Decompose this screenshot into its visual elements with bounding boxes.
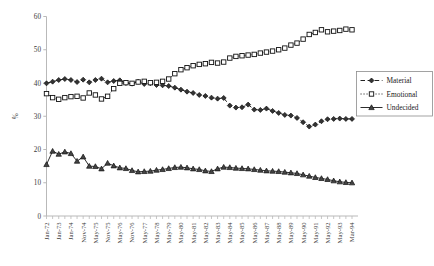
data-point-marker	[325, 30, 329, 34]
x-tick-label: Jan-72	[43, 223, 50, 241]
data-point-marker	[136, 80, 140, 84]
x-tick-label: Mar-94	[348, 222, 355, 242]
x-tick-label: May-75	[92, 222, 99, 244]
data-point-marker	[246, 53, 250, 57]
data-point-marker	[215, 61, 219, 65]
data-point-marker	[112, 86, 116, 90]
legend: MaterialEmotionalUndecided	[357, 72, 433, 117]
data-point-marker	[338, 28, 342, 32]
data-point-marker	[331, 29, 335, 33]
y-tick-label: 30	[34, 113, 42, 121]
x-tick-label: May-87	[263, 222, 270, 244]
data-point-marker	[179, 68, 183, 72]
data-point-marker	[252, 52, 256, 56]
data-point-marker	[270, 49, 274, 53]
x-tick-label: May-80	[177, 222, 184, 244]
data-point-marker	[276, 48, 280, 52]
data-point-marker	[130, 81, 134, 85]
x-tick-label: May-89	[287, 222, 294, 244]
data-point-marker	[105, 94, 109, 98]
data-point-marker	[203, 62, 207, 66]
x-tick-label: May-77	[141, 222, 148, 244]
data-point-marker	[313, 30, 317, 34]
data-point-marker	[87, 91, 91, 95]
data-point-marker	[69, 94, 73, 98]
x-tick-label: May-81	[190, 223, 197, 244]
x-tick-label: May-93	[336, 222, 343, 244]
data-point-marker	[258, 51, 262, 55]
chart-root: 0102030405060%Jan-72Jan-73Jan-74Nov-74Ma…	[0, 0, 434, 266]
x-tick-label: May-84	[226, 222, 233, 244]
y-tick-label: 10	[34, 179, 42, 187]
data-point-marker	[191, 64, 195, 68]
x-tick-label: May-92	[324, 223, 331, 244]
line-chart: 0102030405060%Jan-72Jan-73Jan-74Nov-74Ma…	[0, 0, 434, 266]
y-tick-label: 20	[34, 146, 42, 154]
x-tick-label: May-86	[251, 222, 258, 244]
x-tick-label: Jan-73	[55, 222, 62, 240]
data-point-marker	[167, 77, 171, 81]
data-point-marker	[289, 43, 293, 47]
data-point-marker	[264, 50, 268, 54]
y-tick-label: 0	[37, 213, 41, 221]
data-point-marker	[63, 95, 67, 99]
x-tick-label: May-83	[214, 222, 221, 244]
x-tick-label: May-90	[300, 222, 307, 244]
data-point-marker	[44, 91, 48, 95]
data-point-marker	[93, 93, 97, 97]
data-point-marker	[221, 60, 225, 64]
data-point-marker	[75, 94, 79, 98]
data-point-marker	[295, 41, 299, 45]
data-point-marker	[228, 56, 232, 60]
y-tick-label: 40	[34, 80, 42, 88]
x-tick-label: Nov-74	[80, 222, 87, 243]
x-tick-label: May-78	[153, 222, 160, 244]
x-tick-label: May-82	[202, 223, 209, 244]
data-point-marker	[185, 66, 189, 70]
data-point-marker	[319, 28, 323, 32]
data-point-marker	[344, 27, 348, 31]
data-point-marker	[148, 80, 152, 84]
data-point-marker	[197, 62, 201, 66]
x-tick-label: May-76	[116, 222, 123, 244]
x-tick-label: Jan-74	[67, 222, 74, 240]
data-point-marker	[99, 97, 103, 101]
legend-label-emotional: Emotional	[387, 90, 418, 99]
data-point-marker	[173, 71, 177, 75]
data-point-marker	[154, 80, 158, 84]
legend-label-undecided: Undecided	[387, 103, 419, 112]
data-point-marker	[81, 96, 85, 100]
y-tick-label: 50	[34, 46, 42, 54]
data-point-marker	[50, 95, 54, 99]
data-point-marker	[240, 54, 244, 58]
x-tick-label: May-85	[238, 222, 245, 244]
x-tick-label: May-88	[275, 222, 282, 244]
data-point-marker	[234, 54, 238, 58]
y-tick-label: 60	[34, 13, 42, 21]
data-point-marker	[118, 81, 122, 85]
data-point-marker	[301, 37, 305, 41]
data-point-marker	[369, 92, 373, 96]
data-point-marker	[283, 46, 287, 50]
x-tick-label: Nov-75	[104, 222, 111, 243]
y-axis-title: %	[12, 113, 20, 119]
x-tick-label: May-91	[312, 223, 319, 244]
x-tick-label: May-79	[165, 222, 172, 244]
data-point-marker	[160, 79, 164, 83]
data-point-marker	[307, 32, 311, 36]
data-point-marker	[142, 79, 146, 83]
data-point-marker	[124, 80, 128, 84]
x-tick-label: Nov-76	[128, 222, 135, 243]
data-point-marker	[350, 28, 354, 32]
legend-label-material: Material	[387, 76, 412, 85]
data-point-marker	[57, 97, 61, 101]
data-point-marker	[209, 60, 213, 64]
